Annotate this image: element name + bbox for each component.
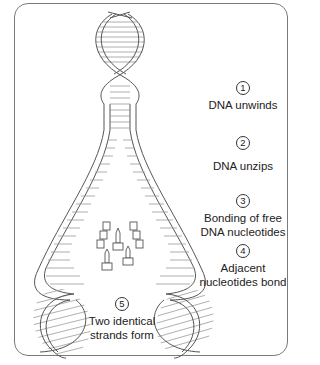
- step-5-label: 5 Two identical strands form: [80, 296, 164, 342]
- step-2-label: 2 DNA unzips: [200, 135, 286, 173]
- step-5-text-line-1: Two identical: [80, 314, 164, 328]
- replication-fork: [35, 86, 206, 300]
- step-3-label: 3 Bonding of free DNA nucleotides: [195, 193, 291, 239]
- step-3-number: 3: [236, 194, 250, 208]
- step-4-label: 4 Adjacent nucleotides bond: [195, 243, 291, 289]
- step-4-text-line-2: nucleotides bond: [195, 275, 291, 289]
- step-1-number: 1: [236, 81, 250, 95]
- step-4-text-line-1: Adjacent: [195, 261, 291, 275]
- step-1-text: DNA unwinds: [200, 98, 286, 112]
- step-3-text-line-1: Bonding of free: [195, 211, 291, 225]
- step-5-text-line-2: strands form: [80, 328, 164, 342]
- step-3-text-line-2: DNA nucleotides: [195, 225, 291, 239]
- step-2-text: DNA unzips: [200, 159, 286, 173]
- free-nucleotides: [97, 222, 143, 270]
- double-helix-top: [90, 12, 150, 104]
- step-2-number: 2: [236, 136, 250, 150]
- step-4-number: 4: [236, 244, 250, 258]
- step-5-number: 5: [115, 297, 129, 311]
- step-1-label: 1 DNA unwinds: [200, 80, 286, 112]
